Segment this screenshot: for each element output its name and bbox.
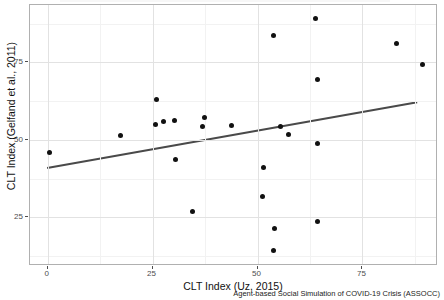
- x-tick-label: 25: [147, 269, 156, 278]
- scatter-plot-figure: 0255075255075 CLT Index (Uz, 2015) CLT I…: [0, 0, 444, 300]
- scatter-point: [420, 62, 425, 67]
- trend-line: [30, 5, 436, 264]
- scatter-point: [315, 77, 320, 82]
- plot-panel: [29, 4, 437, 265]
- scatter-point: [172, 118, 177, 123]
- gridline-major-horizontal: [30, 140, 436, 141]
- scatter-point: [315, 219, 320, 224]
- gridline-major-vertical: [258, 5, 259, 264]
- gridline-minor-horizontal: [30, 101, 436, 102]
- scatter-point: [278, 124, 283, 129]
- gridline-minor-vertical: [205, 5, 206, 264]
- scatter-point: [272, 226, 277, 231]
- y-tick-mark: [25, 61, 28, 62]
- scatter-point: [286, 132, 291, 137]
- scatter-point: [271, 248, 276, 253]
- x-tick-label: 75: [357, 269, 366, 278]
- gridline-minor-vertical: [100, 5, 101, 264]
- y-axis-title: CLT Index (Gelfand et al., 2011): [5, 1, 17, 231]
- scatter-point: [202, 115, 207, 120]
- gridline-minor-horizontal: [30, 256, 436, 257]
- gridline-major-horizontal: [30, 217, 436, 218]
- gridline-minor-horizontal: [30, 179, 436, 180]
- gridline-major-vertical: [362, 5, 363, 264]
- gridline-minor-vertical: [415, 5, 416, 264]
- gridline-major-horizontal: [30, 62, 436, 63]
- gridline-minor-vertical: [310, 5, 311, 264]
- y-tick-mark: [25, 216, 28, 217]
- figure-caption: Agent-based Social Simulation of COVID-1…: [233, 289, 440, 298]
- scatter-point: [260, 194, 265, 199]
- scatter-point: [313, 16, 318, 21]
- top-edge-artifact: [60, 0, 390, 2]
- scatter-point: [153, 122, 158, 127]
- scatter-point: [47, 150, 52, 155]
- x-tick-label: 0: [44, 269, 48, 278]
- scatter-point: [261, 165, 266, 170]
- gridline-major-vertical: [48, 5, 49, 264]
- scatter-point: [118, 133, 123, 138]
- gridline-minor-horizontal: [30, 24, 436, 25]
- gridline-major-vertical: [153, 5, 154, 264]
- scatter-point: [315, 141, 320, 146]
- scatter-point: [173, 157, 178, 162]
- scatter-point: [161, 119, 166, 124]
- scatter-point: [190, 209, 195, 214]
- y-tick-mark: [25, 139, 28, 140]
- scatter-point: [229, 123, 234, 128]
- scatter-point: [394, 41, 399, 46]
- x-tick-label: 50: [252, 269, 261, 278]
- scatter-point: [271, 33, 276, 38]
